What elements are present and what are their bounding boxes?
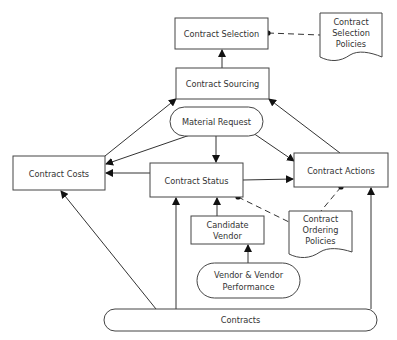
edge-material-to-costs xyxy=(106,135,190,164)
edge-costs-to-sourcing xyxy=(105,99,176,156)
node-vendor-performance[interactable]: Vendor & Vendor Performance xyxy=(197,263,300,298)
node-label-line-2: Vendor xyxy=(213,231,242,241)
node-label: Contracts xyxy=(221,315,261,325)
node-contract-selection-policies[interactable]: Contract Selection Policies xyxy=(320,13,382,61)
node-label-line-2: Selection xyxy=(332,28,370,38)
node-label-line-1: Candidate xyxy=(207,220,249,230)
node-contract-selection[interactable]: Contract Selection xyxy=(175,18,268,49)
node-label: Contract Status xyxy=(165,176,229,186)
node-contract-ordering-policies[interactable]: Contract Ordering Policies xyxy=(289,211,352,258)
edge-actions-to-sourcing xyxy=(269,99,340,153)
node-label-line-2: Performance xyxy=(223,282,275,292)
node-label-line-1: Vendor & Vendor xyxy=(214,270,284,280)
node-label-line-1: Contract xyxy=(333,17,369,27)
node-contract-sourcing[interactable]: Contract Sourcing xyxy=(176,68,269,99)
node-label: Contract Sourcing xyxy=(186,79,260,89)
node-label-line-3: Policies xyxy=(305,236,335,246)
edge-contracts-to-costs xyxy=(61,191,156,309)
node-contract-status[interactable]: Contract Status xyxy=(150,163,243,197)
node-contracts[interactable]: Contracts xyxy=(104,309,377,331)
edge-status-to-actions xyxy=(243,179,293,180)
diagram-canvas: Contract Selection Contract Selection Po… xyxy=(0,0,397,340)
node-label-line-3: Policies xyxy=(336,39,366,49)
node-contract-actions[interactable]: Contract Actions xyxy=(294,153,388,187)
node-label: Contract Selection xyxy=(184,29,260,39)
node-label: Contract Costs xyxy=(29,169,89,179)
node-candidate-vendor[interactable]: Candidate Vendor xyxy=(191,216,264,244)
edge-material-to-actions xyxy=(253,133,294,161)
node-label: Material Request xyxy=(182,117,252,127)
node-label-line-2: Ordering xyxy=(303,225,339,235)
node-contract-costs[interactable]: Contract Costs xyxy=(13,156,105,190)
node-material-request[interactable]: Material Request xyxy=(170,107,263,136)
node-label: Contract Actions xyxy=(307,166,375,176)
link-ordering-actions xyxy=(321,187,341,211)
node-label-line-1: Contract xyxy=(303,214,339,224)
link-selection-policies xyxy=(268,33,320,35)
